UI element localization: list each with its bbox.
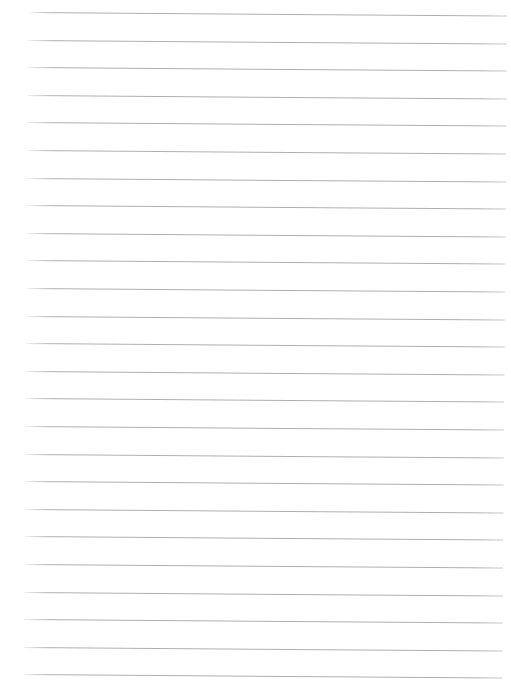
ruled-line [26,454,504,459]
ruled-line [25,564,503,569]
ruled-line [29,12,507,17]
ruled-line [25,536,503,541]
lined-paper-page [0,0,511,695]
ruled-line [27,316,505,321]
ruled-line [26,371,504,376]
ruled-line [29,40,507,45]
ruled-line [27,288,505,293]
ruled-line [25,592,503,597]
ruled-line [29,67,507,72]
ruled-line [26,481,504,486]
ruled-line [28,205,506,210]
ruled-line [28,150,506,155]
ruled-line [28,122,506,127]
ruled-line [27,233,505,238]
ruled-line [25,509,503,514]
ruled-line [24,674,502,679]
ruled-line [28,95,506,100]
ruled-line [27,343,505,348]
ruled-line [28,178,506,183]
ruled-line [27,260,505,265]
ruled-line [25,619,503,624]
ruled-line [24,647,502,652]
ruled-line [26,426,504,431]
ruled-line [26,398,504,403]
ruled-lines-group [0,0,511,695]
